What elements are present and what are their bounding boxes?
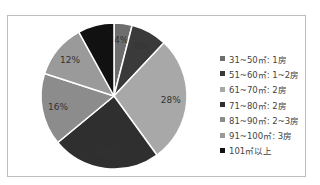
legend-swatch (220, 87, 225, 92)
legend-item: 51~60㎡: 1~2房 (220, 66, 299, 81)
legend-swatch (220, 102, 225, 107)
legend-label: 51~60㎡: 1~2房 (229, 68, 299, 80)
slice-label: 24% (97, 147, 117, 157)
legend-item: 91~100㎡: 3房 (220, 127, 299, 142)
slice-label: 28% (161, 95, 181, 105)
slice-label: 16% (48, 102, 68, 112)
legend-item: 31~50㎡: 1房 (220, 51, 299, 66)
legend-item: 81~90㎡: 2~3房 (220, 112, 299, 127)
legend-label: 81~90㎡: 2~3房 (229, 114, 299, 126)
slice-label: 8% (134, 41, 149, 51)
slice-label: 4% (114, 35, 129, 45)
slice-label: 12% (60, 55, 80, 65)
legend-item: 101㎡以上 (220, 143, 299, 158)
legend-swatch (220, 117, 225, 122)
legend-swatch (220, 71, 225, 76)
legend-swatch (220, 133, 225, 138)
legend-label: 91~100㎡: 3房 (229, 129, 292, 141)
legend-swatch (220, 148, 225, 153)
legend-label: 71~80㎡: 2房 (229, 99, 287, 111)
legend-label: 101㎡以上 (229, 144, 272, 156)
chart-legend: 31~50㎡: 1房51~60㎡: 1~2房61~70㎡: 2房71~80㎡: … (220, 51, 299, 158)
legend-label: 31~50㎡: 1房 (229, 53, 287, 65)
legend-label: 61~70㎡: 2房 (229, 83, 287, 95)
legend-item: 61~70㎡: 2房 (220, 82, 299, 97)
legend-swatch (220, 56, 225, 61)
legend-item: 71~80㎡: 2房 (220, 97, 299, 112)
